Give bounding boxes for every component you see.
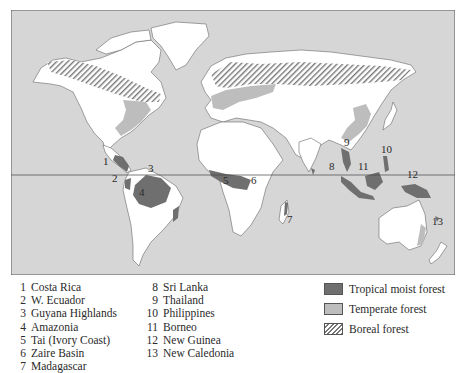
map-label-3: 3: [148, 162, 154, 174]
site-number: 2: [20, 294, 26, 307]
site-item: 3Guyana Highlands: [20, 307, 117, 320]
map-label-8: 8: [329, 160, 335, 172]
tropical-swatch-icon: [324, 283, 343, 295]
map-label-11: 11: [358, 160, 369, 172]
site-item: 2W. Ecuador: [20, 294, 117, 307]
tropical-ecuador: [125, 178, 131, 190]
site-name: Borneo: [163, 321, 197, 333]
site-item: 11Borneo: [145, 321, 234, 334]
site-item: 13New Caledonia: [145, 347, 234, 360]
legend-item-tropical: Tropical moist forest: [324, 282, 445, 295]
site-number: 7: [20, 360, 26, 373]
site-name: Thailand: [163, 294, 204, 306]
site-item: 5Tai (Ivory Coast): [20, 334, 117, 347]
map-label-4: 4: [139, 186, 145, 198]
temperate-swatch-icon: [324, 303, 343, 315]
site-item: 10Philippines: [145, 307, 234, 320]
map-label-7: 7: [287, 213, 293, 225]
site-list-left: 1Costa Rica 2W. Ecuador 3Guyana Highland…: [20, 281, 117, 373]
site-number: 3: [20, 307, 26, 320]
site-number: 13: [145, 347, 158, 360]
site-number: 12: [145, 334, 158, 347]
site-item: 9Thailand: [145, 294, 234, 307]
site-name: Amazonia: [31, 321, 78, 333]
site-name: Philippines: [163, 307, 215, 319]
forest-type-legend: Tropical moist forest Temperate forest B…: [324, 282, 445, 342]
legend-item-boreal: Boreal forest: [324, 322, 445, 335]
site-name: Zaire Basin: [31, 347, 84, 359]
map-label-2: 2: [112, 172, 118, 184]
map-label-6: 6: [251, 174, 257, 186]
site-item: 1Costa Rica: [20, 281, 117, 294]
site-name: Madagascar: [31, 360, 87, 372]
map-label-12: 12: [407, 168, 418, 180]
legend-label: Tropical moist forest: [349, 283, 445, 295]
site-number: 1: [20, 281, 26, 294]
site-name: New Guinea: [163, 334, 221, 346]
site-item: 4Amazonia: [20, 321, 117, 334]
map-label-13: 13: [432, 215, 444, 227]
site-number: 10: [145, 307, 158, 320]
site-name: Tai (Ivory Coast): [31, 334, 110, 346]
map-label-10: 10: [381, 143, 393, 155]
site-item: 12New Guinea: [145, 334, 234, 347]
site-item: 6Zaire Basin: [20, 347, 117, 360]
site-name: Guyana Highlands: [31, 307, 117, 319]
legend-label: Temperate forest: [349, 303, 426, 315]
site-number: 11: [145, 321, 158, 334]
site-item: 8Sri Lanka: [145, 281, 234, 294]
legend-item-temperate: Temperate forest: [324, 302, 445, 315]
site-number: 5: [20, 334, 26, 347]
boreal-hatch-swatch-icon: [324, 323, 343, 335]
site-name: Costa Rica: [31, 281, 81, 293]
site-number: 6: [20, 347, 26, 360]
site-list-right: 8Sri Lanka 9Thailand 10Philippines 11Bor…: [145, 281, 234, 360]
map-label-1: 1: [103, 155, 109, 167]
site-name: New Caledonia: [163, 347, 234, 359]
site-number: 8: [145, 281, 158, 294]
site-item: 7Madagascar: [20, 360, 117, 373]
site-number: 4: [20, 321, 26, 334]
site-number: 9: [145, 294, 158, 307]
legend-label: Boreal forest: [349, 323, 409, 335]
site-name: W. Ecuador: [31, 294, 85, 306]
world-forest-map: 1 2 3 4 5 6 7 8 9 10 11 12 13: [11, 10, 455, 275]
map-label-5: 5: [223, 174, 229, 186]
site-name: Sri Lanka: [163, 281, 208, 293]
map-label-9: 9: [344, 136, 350, 148]
